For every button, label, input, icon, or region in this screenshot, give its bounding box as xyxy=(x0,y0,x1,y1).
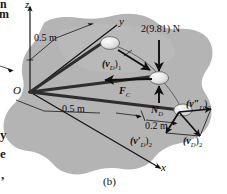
axis-label-origin: O xyxy=(13,85,21,96)
edge-fragment-bottom-2: e xyxy=(0,147,6,160)
velocity-d2-doubleprime-open: (v″ xyxy=(186,98,199,109)
force-cord-label: FC xyxy=(119,86,130,99)
ball-position-1 xyxy=(100,37,119,50)
velocity-d2-doubleprime-label: (v″D)2 xyxy=(186,99,211,112)
force-weight-label: 2(9.81) N xyxy=(141,24,180,34)
dimension-radius-label: 0.5 m xyxy=(62,104,85,114)
dynamics-figure xyxy=(0,0,227,194)
force-cord-symbol: F xyxy=(119,85,126,96)
axis-label-y: y xyxy=(119,16,124,27)
edge-fragment-bottom-1: y xyxy=(0,128,7,141)
vector-force-c xyxy=(105,79,152,80)
velocity-d2-prime-open: (v′ xyxy=(130,135,141,146)
edge-fragment-top-2: m xyxy=(0,8,9,20)
force-normal-label: ND xyxy=(151,105,163,118)
axis-label-z: z xyxy=(25,0,29,10)
velocity-d2-prime-label: (v′D)2 xyxy=(130,136,152,149)
velocity-d2-index: 2 xyxy=(199,141,202,148)
dimension-offset-label: 0.2 m xyxy=(145,121,168,131)
velocity-d1-open: (v xyxy=(102,58,110,69)
velocity-d2-doubleprime-index: 2 xyxy=(207,104,210,111)
velocity-d1-label: (vD)1 xyxy=(102,59,121,72)
edge-fragment-bottom-3: , xyxy=(1,168,4,181)
velocity-d2-prime-index: 2 xyxy=(149,141,152,148)
axis-label-x: x xyxy=(161,162,166,173)
ball-position-D xyxy=(149,72,168,85)
dimension-height-label: 0.5 m xyxy=(34,33,57,43)
velocity-d2-label: (vD)2 xyxy=(183,136,202,149)
figure-caption: (b) xyxy=(103,176,116,187)
force-cord-subscript: C xyxy=(126,91,130,98)
force-normal-subscript: D xyxy=(158,110,163,117)
velocity-d1-index: 1 xyxy=(118,64,121,71)
velocity-d2-open: (v xyxy=(183,135,191,146)
